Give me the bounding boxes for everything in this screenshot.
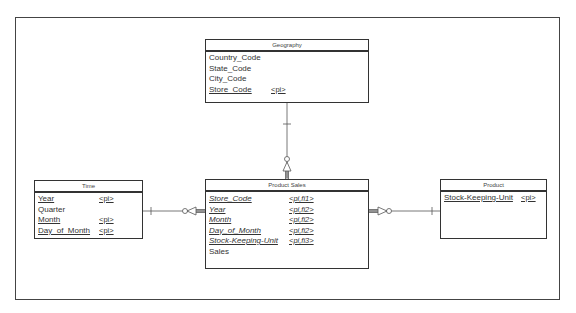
attribute-key: <pi,fi2>	[289, 205, 314, 216]
attribute-name: State_Code	[209, 64, 271, 75]
attribute-name: Year	[38, 194, 99, 205]
attribute-key: <pi,fi3>	[289, 236, 314, 247]
attribute-key: <pi>	[99, 194, 114, 205]
attribute-key: <pi>	[271, 85, 286, 96]
entity-time[interactable]: Time Year <pi> Quarter Month <pi> Day_of…	[34, 180, 143, 239]
attribute-row: Country_Code	[209, 53, 365, 64]
attribute-row: Month <pi>	[38, 215, 139, 226]
attribute-row: City_Code	[209, 74, 365, 85]
attribute-key: <pi,fi2>	[289, 226, 314, 237]
entity-product-sales[interactable]: Product Sales Store_Code <pi,fi1> Year <…	[205, 179, 369, 269]
entity-geography[interactable]: Geography Country_Code State_Code City_C…	[205, 39, 369, 103]
attribute-name: City_Code	[209, 74, 271, 85]
entity-product[interactable]: Product Stock-Keeping-Unit <pi>	[440, 179, 547, 239]
attribute-row: State_Code	[209, 64, 365, 75]
entity-title: Product Sales	[206, 180, 368, 192]
attribute-name: Day_of_Month	[209, 226, 289, 237]
attribute-name: Year	[209, 205, 289, 216]
attribute-name: Store_Code	[209, 85, 271, 96]
attribute-name: Store_Code	[209, 194, 289, 205]
attribute-row: Store_Code <pi,fi1>	[209, 194, 365, 205]
attribute-name: Country_Code	[209, 53, 271, 64]
attribute-name: Stock-Keeping-Unit	[209, 236, 289, 247]
attribute-name: Day_of_Month	[38, 226, 99, 237]
attribute-row: Stock-Keeping-Unit <pi,fi3>	[209, 236, 365, 247]
attribute-key: <pi,fi2>	[289, 215, 314, 226]
attribute-name: Stock-Keeping-Unit	[444, 193, 521, 204]
attribute-name: Sales	[209, 247, 289, 258]
attribute-row: Sales	[209, 247, 365, 258]
attribute-key: <pi>	[521, 193, 536, 204]
attribute-row: Day_of_Month <pi,fi2>	[209, 226, 365, 237]
attribute-row: Month <pi,fi2>	[209, 215, 365, 226]
attribute-row: Stock-Keeping-Unit <pi>	[444, 193, 543, 204]
attribute-key: <pi>	[99, 215, 114, 226]
attribute-key: <pi,fi1>	[289, 194, 314, 205]
entity-title: Time	[35, 181, 142, 193]
attribute-row: Store_Code <pi>	[209, 85, 365, 96]
entity-title: Geography	[206, 40, 368, 52]
attribute-key: <pi>	[99, 226, 114, 237]
attribute-name: Month	[209, 215, 289, 226]
attribute-row: Year <pi,fi2>	[209, 205, 365, 216]
attribute-name: Month	[38, 215, 99, 226]
entity-title: Product	[441, 180, 546, 192]
attribute-name: Quarter	[38, 205, 99, 216]
attribute-row: Quarter	[38, 205, 139, 216]
attribute-row: Year <pi>	[38, 194, 139, 205]
attribute-row: Day_of_Month <pi>	[38, 226, 139, 237]
